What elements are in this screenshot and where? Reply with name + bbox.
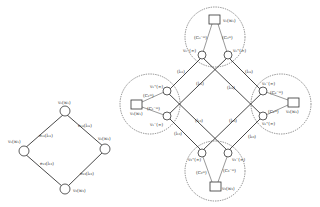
cluster-left-in-node-label: v₁⁻(∞) (149, 122, 163, 127)
edge-e13-label: e₁₃(l₁₃) (40, 161, 54, 166)
edge-cross-top-to-left (167, 57, 228, 116)
cluster-bottom-in-node (224, 149, 232, 157)
edge-e01 (24, 114, 64, 149)
cluster-left-in-edge-label: (C₁ᵐ) (143, 93, 154, 98)
cluster-left-out-node-label: v₁⁺(∞) (149, 84, 163, 89)
node-v0-label: v₀(w₀) (57, 100, 71, 105)
cluster-bottom-square-label: v₃(w₃) (221, 186, 235, 191)
cluster-top-in-node (198, 51, 206, 59)
cluster-top-in-node-label: v₀⁻(∞) (182, 48, 196, 53)
edge-outer-bottom-right-label: (l₂₃) (248, 134, 256, 139)
cluster-top-out-node-label: v₀⁺(∞) (232, 48, 246, 53)
node-v2 (100, 144, 110, 154)
cluster-top-square (209, 15, 220, 24)
cluster-bottom-out-node-label: v₃⁺(∞) (187, 157, 201, 162)
cluster-top-out-node (224, 51, 232, 59)
cluster-right-out-edge-label: (C₂ᵐ) (268, 109, 279, 114)
edge-e02-label: e₀₂(l₀₂) (78, 123, 92, 128)
cluster-left-square (131, 100, 142, 109)
cluster-bottom-out-node (198, 149, 206, 157)
cluster-left-out-node (163, 87, 171, 95)
cluster-bottom (185, 141, 245, 201)
edge-inner-top-left-label: (l₀₁) (196, 81, 204, 86)
cluster-top-out-edge-label: (C₀ᵐ) (222, 35, 233, 40)
cluster-right-in-node-label: v₂⁻(∞) (261, 81, 275, 86)
cluster-right-in-edge-label: (C₂⁻ᵐ) (270, 90, 283, 95)
cluster-right-square-label: v₂(w₂) (285, 109, 299, 114)
edge-inner-bottom-left-label: (l₁₃) (195, 118, 203, 123)
edge-e23 (67, 151, 104, 187)
cluster-right-in-node (259, 87, 267, 95)
cluster-bottom-in-node-label: v₃⁻(∞) (231, 157, 245, 162)
edge-inner-bottom-right-label: (l₂₃) (229, 118, 237, 123)
edge-inner-top-right-label: (l₀₂) (227, 85, 235, 90)
edge-e02 (66, 114, 104, 147)
edge-outer-bottom-left-label: (l₁₃) (174, 131, 182, 136)
node-v2-label: v₂(w₂) (97, 136, 111, 141)
cluster-left-in-node (163, 112, 171, 120)
node-v0 (60, 106, 70, 116)
edge-outer-top-left-label: (l₀₁) (177, 69, 185, 74)
diagram-canvas: v₀(w₀) v₁(w₁) v₂(w₂) v₃(w₃) e₀₁(l₀₁) e₀₂… (0, 0, 320, 207)
right-graph: v₀(w₀) (C₀⁻ᵐ) (C₀ᵐ) v₀⁻(∞) v₀⁺(∞) v₁(w₁)… (120, 7, 311, 201)
cluster-right-out-node (259, 112, 267, 120)
cluster-bottom-square (210, 182, 221, 191)
node-v1 (19, 146, 29, 156)
cluster-top-square-label: v₀(w₀) (222, 18, 236, 23)
edge-e01-label: e₀₁(l₀₁) (39, 133, 53, 138)
cluster-right-out-node-label: v₂⁺(∞) (261, 121, 275, 126)
edge-e23-label: e₂₃(l₂₃) (80, 171, 94, 176)
node-v3 (60, 184, 70, 194)
left-graph: v₀(w₀) v₁(w₁) v₂(w₂) v₃(w₃) e₀₁(l₀₁) e₀₂… (7, 100, 111, 194)
cluster-top-in-edge-label: (C₀⁻ᵐ) (194, 35, 207, 40)
cluster-left-square-label: v₁(w₁) (129, 111, 143, 116)
cluster-bottom-in-edge-label: (C₃ᵐ) (196, 170, 207, 175)
cluster-bottom-out-edge-label: (C₃⁻ᵐ) (223, 168, 236, 173)
node-v1-label: v₁(w₁) (7, 139, 21, 144)
edge-e13 (24, 153, 63, 187)
cluster-right (251, 74, 311, 134)
cluster-left-out-edge-label: (C₁⁻ᵐ) (147, 106, 160, 111)
node-v3-label: v₃(w₃) (72, 188, 86, 193)
edge-outer-top-right-label: (l₀₂) (245, 69, 253, 74)
cluster-right-square (288, 98, 299, 107)
